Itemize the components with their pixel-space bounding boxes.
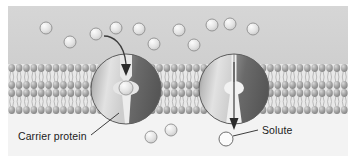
lipid-head (304, 64, 311, 72)
lipid-head (186, 89, 193, 97)
lipid-head (178, 89, 185, 97)
lipid-head (319, 64, 326, 72)
lipid-head (53, 106, 60, 114)
lipid-head (156, 64, 163, 72)
lipid-head (341, 106, 348, 114)
lipid-head (38, 64, 45, 72)
lipid-head (186, 106, 193, 114)
lipid-head (282, 89, 289, 97)
lipid-head (171, 64, 178, 72)
lipid-head (334, 64, 341, 72)
lipid-head (31, 64, 38, 72)
lipid-head (297, 81, 304, 89)
lipid-head (45, 106, 52, 114)
lipid-head (341, 64, 348, 72)
lipid-head (178, 81, 185, 89)
lipid-head (16, 81, 23, 89)
lipid-head (82, 81, 89, 89)
lipid-head (186, 64, 193, 72)
membrane-transport-diagram: Solute Carrier protein (8, 6, 348, 156)
lipid-head (38, 89, 45, 97)
lipid-head (334, 106, 341, 114)
lipid-head (326, 106, 333, 114)
bound-solute (119, 81, 133, 95)
lipid-head (68, 106, 75, 114)
lipid-head (8, 106, 15, 114)
lipid-head (90, 64, 97, 72)
lipid-head (75, 106, 82, 114)
lipid-head (75, 64, 82, 72)
lipid-head (38, 106, 45, 114)
solute-molecule (64, 36, 76, 48)
solute-molecule (247, 23, 259, 35)
lipid-head (334, 89, 341, 97)
lipid-head (304, 89, 311, 97)
lipid-head (274, 106, 281, 114)
lipid-head (164, 81, 171, 89)
lipid-head (38, 81, 45, 89)
solute-molecule (90, 28, 102, 40)
carrier-protein-label: Carrier protein (18, 130, 87, 142)
lipid-head (334, 81, 341, 89)
labeled-solute (219, 132, 233, 146)
solute-molecule (206, 19, 218, 31)
lipid-head (282, 64, 289, 72)
lipid-head (164, 106, 171, 114)
lipid-head (31, 106, 38, 114)
solute-molecule (148, 38, 160, 50)
lipid-head (45, 64, 52, 72)
lipid-head (267, 64, 274, 72)
lipid-head (289, 106, 296, 114)
lipid-head (68, 81, 75, 89)
lipid-head (297, 64, 304, 72)
lipid-head (304, 81, 311, 89)
lipid-head (23, 64, 30, 72)
diagram-stage: Solute Carrier protein (8, 6, 348, 156)
lipid-head (186, 81, 193, 89)
lipid-head (267, 106, 274, 114)
figure-container: Solute Carrier protein (0, 0, 356, 162)
lipid-head (156, 106, 163, 114)
lipid-head (23, 106, 30, 114)
lipid-head (178, 64, 185, 72)
lipid-head (193, 64, 200, 72)
lipid-head (274, 81, 281, 89)
lipid-head (60, 89, 67, 97)
lipid-head (304, 106, 311, 114)
lipid-head (289, 89, 296, 97)
lipid-head (82, 64, 89, 72)
lipid-head (274, 64, 281, 72)
lipid-head (53, 81, 60, 89)
lipid-head (16, 106, 23, 114)
lipid-head (341, 81, 348, 89)
lipid-head (60, 81, 67, 89)
lipid-head (319, 81, 326, 89)
solute-molecule (173, 24, 185, 36)
lipid-head (60, 64, 67, 72)
lipid-head (297, 106, 304, 114)
lipid-head (23, 89, 30, 97)
lipid-head (164, 64, 171, 72)
lipid-head (16, 64, 23, 72)
lipid-head (16, 89, 23, 97)
solute-label: Solute (262, 124, 292, 136)
lipid-head (68, 64, 75, 72)
lipid-head (341, 89, 348, 97)
lipid-head (23, 81, 30, 89)
lipid-head (75, 81, 82, 89)
lipid-head (8, 81, 15, 89)
solute-molecule (133, 23, 145, 35)
lipid-head (82, 106, 89, 114)
lipid-head (53, 89, 60, 97)
lipid-head (8, 89, 15, 97)
solute-molecule (188, 39, 200, 51)
lipid-head (8, 64, 15, 72)
lipid-head (68, 89, 75, 97)
solute-molecule (165, 124, 177, 136)
lipid-head (311, 106, 318, 114)
lipid-head (164, 89, 171, 97)
lipid-head (297, 89, 304, 97)
lipid-head (75, 89, 82, 97)
lipid-head (178, 106, 185, 114)
lipid-head (289, 64, 296, 72)
